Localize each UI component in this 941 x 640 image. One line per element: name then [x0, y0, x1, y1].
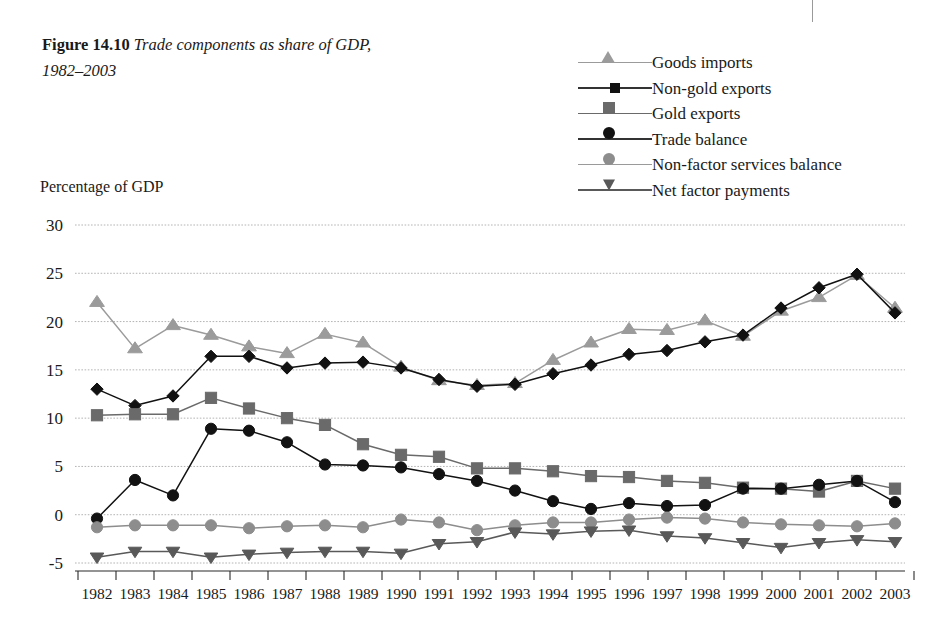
- series-gold-exports: [91, 392, 900, 497]
- point-trade-balance-1985: [205, 423, 216, 434]
- point-trade-balance-1987: [281, 437, 292, 448]
- y-tick-label-20: 20: [46, 313, 63, 332]
- point-non-factor-services-balance-2001: [813, 520, 824, 531]
- point-trade-balance-1993: [509, 485, 520, 496]
- point-non-factor-services-balance-2002: [851, 521, 862, 532]
- x-tick-label-1995: 1995: [576, 585, 607, 602]
- point-non-factor-services-balance-1986: [243, 523, 254, 534]
- point-gold-exports-1984: [167, 409, 178, 420]
- point-non-factor-services-balance-1997: [661, 512, 672, 523]
- point-trade-balance-1996: [623, 498, 634, 509]
- x-tick-label-1986: 1986: [234, 585, 265, 602]
- point-gold-exports-1992: [471, 463, 482, 474]
- point-non-gold-exports-1992: [471, 380, 483, 392]
- x-tick-label-1999: 1999: [728, 585, 759, 602]
- point-non-factor-services-balance-1992: [471, 525, 482, 536]
- point-trade-balance-2002: [851, 475, 862, 486]
- point-non-factor-services-balance-2000: [775, 519, 786, 530]
- point-non-gold-exports-1982: [91, 383, 103, 395]
- point-gold-exports-1987: [281, 413, 292, 424]
- series-line-goods-imports: [97, 275, 895, 385]
- point-gold-exports-1985: [205, 392, 216, 403]
- point-trade-balance-2000: [775, 483, 786, 494]
- point-net-factor-payments-1987: [280, 548, 294, 559]
- point-gold-exports-1988: [319, 419, 330, 430]
- point-trade-balance-1990: [395, 462, 406, 473]
- x-tick-label-2003: 2003: [880, 585, 911, 602]
- x-tick-label-1984: 1984: [158, 585, 189, 602]
- point-non-gold-exports-1995: [585, 359, 597, 371]
- point-net-factor-payments-1997: [660, 532, 674, 543]
- point-trade-balance-1999: [737, 483, 748, 494]
- series-line-trade-balance: [97, 429, 895, 519]
- point-gold-exports-1994: [547, 466, 558, 477]
- point-non-factor-services-balance-2003: [889, 518, 900, 529]
- point-net-factor-payments-1992: [470, 538, 484, 549]
- y-tick-label-15: 15: [46, 361, 63, 380]
- point-trade-balance-1995: [585, 503, 596, 514]
- point-trade-balance-1992: [471, 475, 482, 486]
- point-non-gold-exports-1987: [281, 362, 293, 374]
- point-non-gold-exports-1989: [357, 356, 369, 368]
- point-gold-exports-1990: [395, 449, 406, 460]
- point-gold-exports-1986: [243, 403, 254, 414]
- x-tick-label-1983: 1983: [120, 585, 151, 602]
- point-non-gold-exports-1996: [623, 348, 635, 360]
- series-line-non-gold-exports: [97, 274, 895, 405]
- y-tick-label-5: 5: [55, 457, 64, 476]
- series-non-factor-services-balance: [91, 512, 900, 536]
- point-non-factor-services-balance-1999: [737, 517, 748, 528]
- x-tick-label-1989: 1989: [348, 585, 379, 602]
- point-net-factor-payments-2000: [774, 543, 788, 554]
- point-gold-exports-1991: [433, 451, 444, 462]
- point-goods-imports-1998: [698, 314, 713, 325]
- series-line-gold-exports: [97, 398, 895, 492]
- point-trade-balance-1991: [433, 469, 444, 480]
- point-non-factor-services-balance-1991: [433, 517, 444, 528]
- x-tick-label-2002: 2002: [842, 585, 873, 602]
- point-net-factor-payments-1988: [318, 547, 332, 558]
- point-net-factor-payments-1989: [356, 547, 370, 558]
- point-trade-balance-1984: [167, 490, 178, 501]
- series-goods-imports: [90, 268, 903, 389]
- x-tick-label-1985: 1985: [196, 585, 227, 602]
- point-non-factor-services-balance-1988: [319, 520, 330, 531]
- point-non-factor-services-balance-1984: [167, 520, 178, 531]
- figure-root: Figure 14.10 Trade components as share o…: [0, 0, 941, 640]
- point-non-gold-exports-1997: [661, 344, 673, 356]
- point-net-factor-payments-1990: [394, 549, 408, 560]
- point-non-gold-exports-1998: [699, 336, 711, 348]
- x-tick-label-1993: 1993: [500, 585, 531, 602]
- point-net-factor-payments-2003: [888, 538, 902, 549]
- point-non-factor-services-balance-1990: [395, 514, 406, 525]
- series-non-gold-exports: [91, 268, 901, 412]
- chart-canvas: -505101520253019821983198419851986198719…: [0, 0, 941, 640]
- point-goods-imports-1996: [622, 322, 637, 333]
- point-non-gold-exports-1988: [319, 357, 331, 369]
- point-trade-balance-1988: [319, 459, 330, 470]
- y-tick-label-0: 0: [55, 506, 64, 525]
- point-non-factor-services-balance-1998: [699, 513, 710, 524]
- x-tick-label-1987: 1987: [272, 585, 303, 602]
- point-net-factor-payments-1985: [204, 553, 218, 564]
- point-gold-exports-1989: [357, 439, 368, 450]
- x-tick-label-1992: 1992: [462, 585, 493, 602]
- point-non-factor-services-balance-1995: [585, 517, 596, 528]
- plot-area: -505101520253019821983198419851986198719…: [0, 0, 941, 640]
- x-tick-label-1991: 1991: [424, 585, 455, 602]
- x-tick-label-1998: 1998: [690, 585, 721, 602]
- point-trade-balance-2001: [813, 479, 824, 490]
- point-trade-balance-2003: [889, 497, 900, 508]
- point-trade-balance-1994: [547, 496, 558, 507]
- point-gold-exports-1997: [661, 475, 672, 486]
- point-trade-balance-1986: [243, 425, 254, 436]
- x-tick-label-1982: 1982: [82, 585, 113, 602]
- point-non-factor-services-balance-1982: [91, 522, 102, 533]
- point-gold-exports-2003: [889, 483, 900, 494]
- point-non-factor-services-balance-1989: [357, 522, 368, 533]
- point-net-factor-payments-1982: [90, 553, 104, 564]
- y-tick-label-30: 30: [46, 216, 63, 235]
- x-tick-label-1996: 1996: [614, 585, 645, 602]
- point-goods-imports-1994: [546, 353, 561, 364]
- y-tick-label--5: -5: [49, 554, 63, 573]
